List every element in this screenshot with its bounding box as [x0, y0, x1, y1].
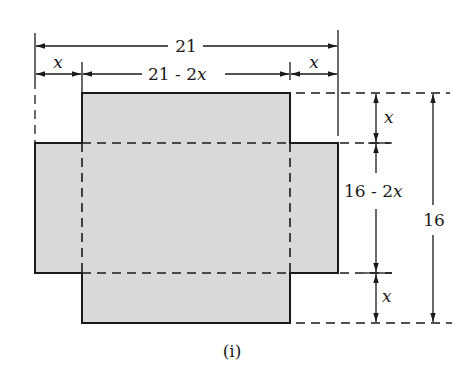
- label-inner-height: 16 - 2x: [344, 181, 403, 201]
- box-net-shape: [35, 93, 338, 323]
- label-total-height: 16: [423, 210, 445, 230]
- figure-caption: (i): [223, 341, 242, 361]
- label-total-width: 21: [175, 36, 197, 56]
- label-cut-right: x: [309, 52, 319, 72]
- label-cut-bottom: x: [382, 286, 392, 306]
- label-cut-top: x: [384, 107, 394, 127]
- label-inner-width: 21 - 2x: [148, 64, 207, 84]
- box-net-diagram: 21 x 21 - 2x x x 16 - 2x x 16 (i): [0, 0, 476, 371]
- label-cut-left: x: [53, 52, 63, 72]
